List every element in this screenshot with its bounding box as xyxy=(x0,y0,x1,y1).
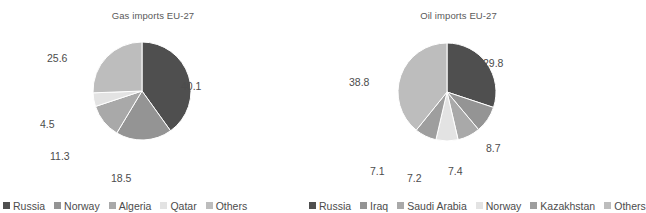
data-label-gas-qatar: 4.5 xyxy=(40,118,55,130)
gas-legend-item-algeria[interactable]: Algeria xyxy=(109,201,152,212)
data-label-oil-others: 38.8 xyxy=(349,76,369,88)
legend-swatch-icon xyxy=(309,202,316,209)
pie-chart-oil xyxy=(397,42,497,142)
legend-swatch-icon xyxy=(54,202,61,209)
legend-label: Russia xyxy=(319,201,351,212)
gas-legend-item-qatar[interactable]: Qatar xyxy=(160,201,196,212)
data-label-oil-russia: 29.8 xyxy=(483,57,503,69)
data-label-oil-norway: 7.2 xyxy=(407,172,422,184)
legend-label: Algeria xyxy=(119,201,152,212)
legend-label: Saudi Arabia xyxy=(407,201,467,212)
legend-swatch-icon xyxy=(397,202,404,209)
pie-svg-gas xyxy=(92,41,192,141)
data-label-oil-iraq: 8.7 xyxy=(486,142,501,154)
data-label-oil-saudi-arabia: 7.4 xyxy=(448,165,463,177)
chart-title-oil: Oil imports EU-27 xyxy=(306,10,611,21)
oil-legend-item-kazakhstan[interactable]: Kazakhstan xyxy=(530,201,595,212)
legend-swatch-icon xyxy=(3,202,10,209)
legend-label: Norway xyxy=(64,201,100,212)
legend-swatch-icon xyxy=(530,202,537,209)
oil-legend-item-norway[interactable]: Norway xyxy=(476,201,522,212)
legend-swatch-icon xyxy=(109,202,116,209)
legend-gas: RussiaNorwayAlgeriaQatarOthers xyxy=(0,201,306,212)
legend-label: Qatar xyxy=(170,201,196,212)
legend-swatch-icon xyxy=(604,202,611,209)
chart-panel-oil-imports: Oil imports EU-27 29.8 38.8 8.7 7.4 7.2 … xyxy=(306,0,611,213)
legend-label: Kazakhstan xyxy=(540,201,595,212)
pie-svg-oil xyxy=(397,42,497,142)
chart-panel-gas-imports: Gas imports EU-27 25.6 40.1 4.5 11.3 18.… xyxy=(0,0,306,213)
oil-legend-item-iraq[interactable]: Iraq xyxy=(360,201,388,212)
data-label-gas-norway: 18.5 xyxy=(111,172,131,184)
oil-legend-item-saudi-arabia[interactable]: Saudi Arabia xyxy=(397,201,467,212)
legend-label: Others xyxy=(216,201,248,212)
data-label-gas-russia: 40.1 xyxy=(181,80,201,92)
gas-slice-others[interactable] xyxy=(93,42,142,93)
legend-swatch-icon xyxy=(160,202,167,209)
oil-legend-item-others[interactable]: Others xyxy=(604,201,646,212)
legend-label: Norway xyxy=(486,201,522,212)
data-label-oil-kazakhstan: 7.1 xyxy=(370,165,385,177)
legend-swatch-icon xyxy=(360,202,367,209)
gas-legend-item-russia[interactable]: Russia xyxy=(3,201,45,212)
chart-title-gas: Gas imports EU-27 xyxy=(0,10,306,21)
gas-legend-item-norway[interactable]: Norway xyxy=(54,201,100,212)
legend-oil: RussiaIraqSaudi ArabiaNorwayKazakhstanOt… xyxy=(306,201,611,212)
legend-swatch-icon xyxy=(206,202,213,209)
oil-legend-item-russia[interactable]: Russia xyxy=(309,201,351,212)
legend-swatch-icon xyxy=(476,202,483,209)
data-label-gas-algeria: 11.3 xyxy=(50,150,70,162)
legend-label: Others xyxy=(614,201,646,212)
data-label-gas-others: 25.6 xyxy=(47,52,67,64)
legend-label: Russia xyxy=(13,201,45,212)
gas-legend-item-others[interactable]: Others xyxy=(206,201,248,212)
pie-chart-gas xyxy=(92,41,192,141)
legend-label: Iraq xyxy=(370,201,388,212)
